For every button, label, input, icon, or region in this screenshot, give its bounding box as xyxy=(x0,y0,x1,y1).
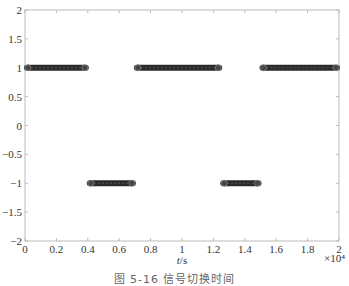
x-tick-label: 0 xyxy=(22,243,28,255)
segment xyxy=(221,180,260,186)
plot-area xyxy=(25,10,339,241)
y-tick-label: −0.5 xyxy=(2,148,22,160)
segment xyxy=(261,65,340,71)
y-tick-label: 1.5 xyxy=(8,33,22,45)
chart: 21.510.50−0.5−1−1.5−2 00.20.40.60.811.21… xyxy=(0,0,349,268)
y-tick-label: −2 xyxy=(10,235,22,247)
x-tick-label: 0.6 xyxy=(112,243,126,255)
x-tick-label: 0.4 xyxy=(81,243,95,255)
y-tick-label: 2 xyxy=(17,4,23,16)
segment xyxy=(25,65,88,71)
y-tick-label: −1 xyxy=(10,177,22,189)
x-axis-label: t/s xyxy=(177,254,187,266)
x-tick-label: 1.8 xyxy=(301,243,315,255)
x-tick-label: 1.2 xyxy=(207,243,221,255)
y-tick-label: 1 xyxy=(17,62,23,74)
y-tick-label: 0 xyxy=(17,120,23,132)
figure-caption: 图 5-16 信号切换时间 xyxy=(0,270,349,286)
segment xyxy=(135,65,221,71)
x-tick-label: 1.6 xyxy=(269,243,283,255)
y-tick-label: −1.5 xyxy=(2,206,22,218)
segment xyxy=(88,180,135,186)
y-tick-label: 0.5 xyxy=(8,91,22,103)
x-tick-label: 0.2 xyxy=(50,243,64,255)
x-tick-label: 1.4 xyxy=(238,243,252,255)
x-multiplier: ×10⁴ xyxy=(324,252,345,264)
x-tick-label: 0.8 xyxy=(144,243,158,255)
